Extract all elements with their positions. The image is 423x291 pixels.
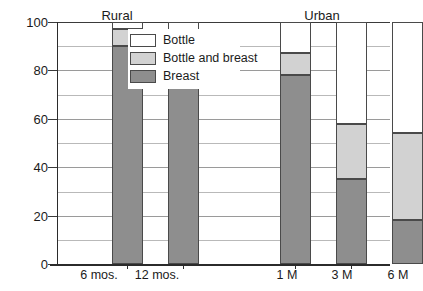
x-tick-label-6-m: 6 M <box>376 268 420 282</box>
segment-bottle-6-m <box>392 22 423 133</box>
y-axis: 100 80 60 40 20 0 <box>0 0 48 291</box>
legend-item-bottle-and-breast: Bottle and breast <box>130 50 238 67</box>
group-label-rural: Rural <box>62 8 172 23</box>
y-tick-mark-60 <box>48 119 57 120</box>
x-axis-line <box>50 264 390 266</box>
x-tick-label-6-mos: 6 mos. <box>70 268 128 282</box>
segment-bottle-and-breast-1-m <box>280 53 311 75</box>
y-tick-label-20: 20 <box>2 210 48 223</box>
legend-swatch-breast-icon <box>130 70 156 83</box>
bar-3-m <box>336 22 367 264</box>
legend-item-breast: Breast <box>130 68 238 85</box>
y-tick-mark-40 <box>48 167 57 168</box>
bar-6-m <box>392 22 423 264</box>
group-label-urban: Urban <box>272 8 372 23</box>
legend-label-breast: Breast <box>163 70 199 83</box>
segment-breast-12-mos <box>168 58 199 264</box>
y-tick-label-40: 40 <box>2 161 48 174</box>
segment-bottle-3-m <box>336 22 367 124</box>
segment-breast-1-m <box>280 75 311 264</box>
y-tick-mark-20 <box>48 216 57 217</box>
segment-bottle-and-breast-6-m <box>392 133 423 220</box>
legend-swatch-bottle-icon <box>130 34 156 47</box>
y-tick-label-80: 80 <box>2 64 48 77</box>
y-tick-label-60: 60 <box>2 113 48 126</box>
y-tick-label-0: 0 <box>2 258 48 271</box>
x-tick-label-3-m: 3 M <box>320 268 364 282</box>
bar-1-m <box>280 22 311 264</box>
y-tick-mark-100 <box>48 22 57 23</box>
legend: Bottle Bottle and breast Breast <box>128 29 240 89</box>
y-tick-label-100: 100 <box>2 16 48 29</box>
legend-label-bottle: Bottle <box>163 34 195 47</box>
legend-item-bottle: Bottle <box>130 32 238 49</box>
segment-bottle-and-breast-3-m <box>336 124 367 180</box>
segment-bottle-1-m <box>280 22 311 53</box>
segment-breast-3-m <box>336 179 367 264</box>
y-tick-mark-80 <box>48 70 57 71</box>
legend-swatch-bottle-and-breast-icon <box>130 52 156 65</box>
x-tick-label-1-m: 1 M <box>265 268 309 282</box>
x-tick-label-12-mos: 12 mos. <box>125 268 189 282</box>
legend-label-bottle-and-breast: Bottle and breast <box>163 52 258 65</box>
segment-breast-6-m <box>392 220 423 264</box>
